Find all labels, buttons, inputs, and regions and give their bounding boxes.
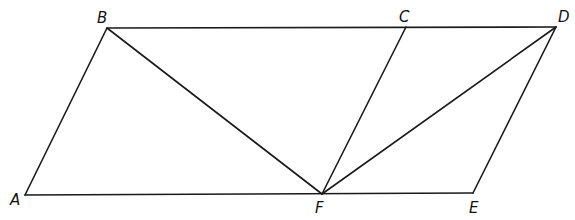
segment-bd: [107, 27, 556, 28]
label-a: A: [9, 191, 20, 209]
label-c: C: [399, 8, 410, 26]
geometry-diagram: A B C D E F: [0, 0, 575, 220]
segment-de: [473, 27, 556, 193]
label-d: D: [558, 8, 570, 26]
label-b: B: [97, 9, 107, 27]
labels-group: A B C D E F: [9, 8, 570, 217]
segment-df: [322, 27, 556, 194]
label-f: F: [315, 199, 324, 217]
label-e: E: [469, 199, 479, 217]
segment-cf: [322, 27, 406, 194]
segment-bf: [107, 28, 322, 194]
segment-ae: [25, 193, 473, 195]
segments-group: [25, 27, 556, 195]
segment-ab: [25, 28, 107, 195]
